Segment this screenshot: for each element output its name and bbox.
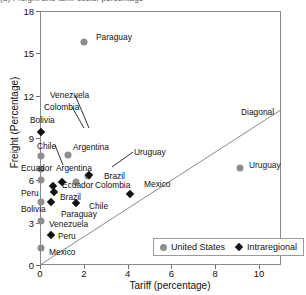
chart-legend: United States Intraregional [153,238,304,256]
x-tick-mark [128,265,129,269]
x-tick-mark [259,265,260,269]
y-tick-mark [36,53,40,54]
x-tick-label: 0 [37,268,42,279]
data-point-united-states-argentina [65,151,72,158]
y-axis-title: Freight (Percentage) [9,48,20,198]
point-label-mexico: Mexico [144,180,171,188]
point-label-brazil: Brazil [60,193,81,201]
y-tick-mark [36,138,40,139]
point-label-paraguay: Paraguay [96,33,132,41]
point-label-ecuador: Ecuador [62,181,93,189]
x-tick-mark [171,265,172,269]
point-label-argentina: Argentina [56,164,92,172]
x-axis-title-text: Tariff (percentage) [96,280,211,291]
point-label-venezuela: Venezuela [50,91,89,99]
point-label-uruguay: Uruguay [134,148,166,156]
y-tick-mark [36,11,40,12]
scatter-chart: (a) Freight and tariff costs, percentage… [0,0,306,295]
point-label-chile: Chile [37,142,56,150]
legend-item-intraregional[interactable]: Intraregional [235,242,297,252]
x-tick-label: 6 [169,268,174,279]
diamond-marker-icon [235,243,243,251]
point-label-mexico: Mexico [49,248,76,256]
point-label-peru: Peru [58,232,76,240]
point-label-bolivia: Bolivia [21,205,46,213]
x-tick-label: 4 [125,268,130,279]
x-tick-label: 2 [81,268,86,279]
data-point-united-states-chile [38,153,45,160]
point-label-colombia: Colombia [44,103,79,111]
y-tick-label: 0 [10,260,34,271]
point-label-colombia: Colombia [95,181,130,189]
point-label-venezuela: Venezuela [49,220,88,228]
data-point-united-states-paraguay [80,39,87,46]
point-label-bolivia: Bolivia [30,116,55,124]
data-point-united-states-mexico [38,245,45,252]
point-label-diagonal: Diagonal [241,108,274,116]
cropped-figure-header: (a) Freight and tariff costs, percentage [0,0,306,3]
y-tick-label: 18 [10,6,34,17]
y-tick-label: 3 [10,217,34,228]
data-point-united-states-venezuela [38,217,45,224]
y-tick-mark [36,96,40,97]
point-label-ecuador: Ecuador [21,164,52,172]
x-tick-label: 10 [254,268,265,279]
x-tick-mark [40,265,41,269]
x-tick-mark [215,265,216,269]
point-label-uruguay: Uruguay [249,161,281,169]
x-axis-title: Tariff (percentage) [0,280,306,291]
point-label-paraguay: Paraguay [61,210,97,218]
data-point-united-states-uruguay [237,164,244,171]
x-tick-mark [84,265,85,269]
point-label-argentina: Argentina [73,143,109,151]
point-label-peru: Peru [21,189,39,197]
legend-item-united-states[interactable]: United States [160,242,225,252]
circle-marker-icon [160,244,167,251]
x-tick-label: 8 [213,268,218,279]
legend-label-united-states: United States [171,242,225,252]
legend-label-intraregional: Intraregional [247,242,297,252]
data-point-united-states-peru [38,177,45,184]
